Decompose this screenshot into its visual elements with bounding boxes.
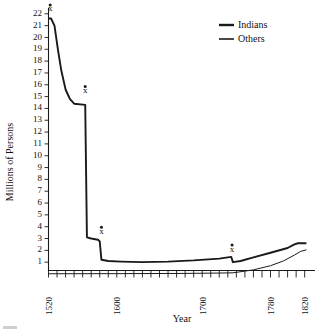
y-tick-label: 7 bbox=[38, 185, 43, 195]
data-point-x-marker: x bbox=[83, 85, 88, 95]
y-tick-label: 5 bbox=[38, 209, 43, 219]
x-tick-label: 1780 bbox=[266, 297, 276, 316]
legend-label-indians: Indians bbox=[238, 19, 268, 30]
y-axis-tick-marks bbox=[45, 14, 49, 262]
y-tick-label: 21 bbox=[33, 20, 42, 30]
x-axis-title: Year bbox=[173, 313, 192, 324]
series-line-indians bbox=[49, 19, 307, 263]
legend: Indians Others bbox=[219, 19, 268, 44]
y-tick-label: 19 bbox=[33, 43, 43, 53]
y-tick-label: 8 bbox=[38, 173, 43, 183]
y-tick-label: 16 bbox=[33, 79, 43, 89]
x-tick-label: 1700 bbox=[198, 297, 208, 316]
y-tick-label: 22 bbox=[33, 8, 42, 18]
figure-container: 12345678910111213141516171819202122 1520… bbox=[0, 0, 327, 334]
y-tick-label: 20 bbox=[33, 32, 43, 42]
y-axis-title: Millions of Persons bbox=[4, 123, 15, 201]
y-tick-label: 17 bbox=[33, 67, 43, 77]
data-point-x-marker: x bbox=[48, 3, 53, 13]
y-tick-label: 15 bbox=[33, 91, 43, 101]
y-tick-label: 10 bbox=[33, 150, 43, 160]
y-axis-tick-labels: 12345678910111213141516171819202122 bbox=[33, 8, 43, 266]
y-tick-label: 2 bbox=[38, 244, 43, 254]
data-point-markers: xxxx bbox=[48, 3, 235, 253]
data-point-x-marker: x bbox=[99, 226, 104, 236]
y-tick-label: 9 bbox=[38, 162, 43, 172]
x-tick-label: 1820 bbox=[300, 297, 310, 316]
caption-fragment bbox=[3, 326, 17, 329]
x-tick-label: 1600 bbox=[112, 297, 122, 316]
y-tick-label: 11 bbox=[33, 138, 42, 148]
y-tick-label: 12 bbox=[33, 126, 42, 136]
y-tick-label: 13 bbox=[33, 114, 43, 124]
population-decline-chart: 12345678910111213141516171819202122 1520… bbox=[0, 0, 327, 334]
y-tick-label: 18 bbox=[33, 55, 43, 65]
legend-label-others: Others bbox=[238, 33, 265, 44]
y-tick-label: 4 bbox=[38, 221, 43, 231]
y-tick-label: 14 bbox=[33, 102, 43, 112]
y-tick-label: 1 bbox=[38, 256, 43, 266]
y-tick-label: 3 bbox=[38, 233, 43, 243]
y-tick-label: 6 bbox=[38, 197, 43, 207]
x-tick-label: 1520 bbox=[44, 297, 54, 316]
data-point-x-marker: x bbox=[230, 244, 235, 254]
